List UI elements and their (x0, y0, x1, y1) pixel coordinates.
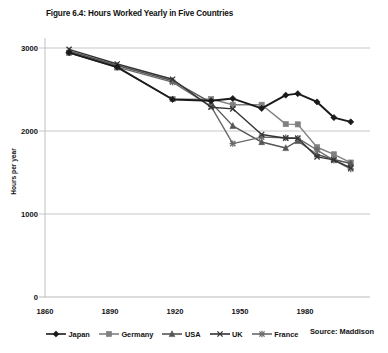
triangle-marker (162, 329, 182, 339)
chart-plot (0, 20, 388, 310)
y-axis-label: Hours per year (10, 137, 17, 207)
legend-item-label: Germany (121, 330, 153, 339)
x-tick-1920: 1920 (155, 307, 195, 316)
cross-marker (210, 329, 230, 339)
legend-item-label: USA (185, 330, 201, 339)
legend-item-germany[interactable]: Germany (99, 329, 154, 339)
y-tick-2000: 2000 (4, 127, 38, 136)
asterisk-marker (252, 329, 272, 339)
legend-item-france[interactable]: France (252, 329, 299, 339)
legend-item-label: France (274, 330, 298, 339)
square-marker (99, 329, 119, 339)
diamond-marker (46, 329, 66, 339)
y-tick-1000: 1000 (4, 210, 38, 219)
x-tick-1860: 1860 (25, 307, 65, 316)
x-tick-1980: 1980 (285, 307, 325, 316)
figure-container: Figure 6.4: Hours Worked Yearly in Five … (0, 0, 388, 353)
legend-item-label: UK (232, 330, 243, 339)
legend-item-japan[interactable]: Japan (46, 329, 90, 339)
y-tick-0: 0 (4, 293, 38, 302)
x-tick-1890: 1890 (90, 307, 130, 316)
plot-area: Hours per year 3000 2000 1000 0 1860 189… (0, 20, 388, 310)
source-note: Source: Maddison (310, 327, 374, 336)
y-tick-3000: 3000 (4, 44, 38, 53)
legend-item-usa[interactable]: USA (162, 329, 200, 339)
chart-legend: JapanGermanyUSAUKFrance (46, 327, 298, 341)
legend-item-uk[interactable]: UK (210, 329, 243, 339)
x-tick-1950: 1950 (220, 307, 260, 316)
legend-item-label: Japan (69, 330, 90, 339)
figure-title: Figure 6.4: Hours Worked Yearly in Five … (46, 9, 233, 18)
